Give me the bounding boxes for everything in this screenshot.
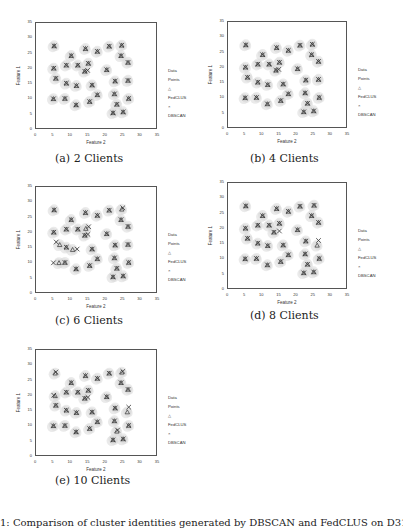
- x-tick-label: 0: [222, 292, 232, 297]
- x-tick-label: 0: [30, 459, 40, 464]
- legend-item-fedclus: △ FedCLUS: [168, 411, 186, 429]
- legend-item-dbscan: × DBSCAN: [168, 429, 186, 447]
- x-tick-label: 10: [256, 292, 266, 297]
- legend: Data Points△ FedCLUS× DBSCAN: [168, 230, 186, 284]
- plot-area: [227, 21, 347, 128]
- x-tick-label: 10: [65, 459, 75, 464]
- legend-item-dbscan: × DBSCAN: [168, 266, 186, 284]
- legend: Data Points△ FedCLUS× DBSCAN: [358, 226, 376, 280]
- x-tick-label: 30: [135, 459, 145, 464]
- x-tick-label: 5: [47, 296, 57, 301]
- scatter-points: [36, 187, 158, 294]
- y-axis-label: Feature 1: [208, 59, 213, 89]
- y-axis-label: Feature 1: [16, 387, 21, 417]
- y-tick-label: 10: [214, 94, 224, 99]
- x-tick-label: 10: [256, 131, 266, 136]
- y-tick-label: 10: [22, 422, 32, 427]
- y-tick-label: 35: [22, 183, 32, 188]
- x-tick-label: 10: [65, 132, 75, 137]
- y-tick-label: 0: [22, 453, 32, 458]
- figure-caption: 1: Comparison of cluster identities gene…: [0, 517, 403, 528]
- x-tick-label: 15: [82, 459, 92, 464]
- y-axis-label: Feature 1: [16, 224, 21, 254]
- y-tick-label: 25: [22, 377, 32, 382]
- y-tick-label: 15: [22, 80, 32, 85]
- x-tick-label: 15: [82, 296, 92, 301]
- legend-item-data-points: Data Points: [358, 226, 376, 244]
- y-tick-label: 25: [22, 214, 32, 219]
- y-tick-label: 0: [214, 125, 224, 130]
- x-tick-label: 15: [82, 132, 92, 137]
- x-tick-label: 15: [273, 131, 283, 136]
- y-axis-label: Feature 1: [16, 60, 21, 90]
- legend: Data Points△ FedCLUS× DBSCAN: [168, 393, 186, 447]
- y-tick-label: 20: [22, 392, 32, 397]
- x-tick-label: 5: [47, 459, 57, 464]
- x-tick-label: 20: [291, 292, 301, 297]
- legend-item-data-points: Data Points: [358, 65, 376, 83]
- y-tick-label: 30: [214, 33, 224, 38]
- y-tick-label: 15: [22, 407, 32, 412]
- y-tick-label: 35: [22, 19, 32, 24]
- subfigure-caption: (a) 2 Clients: [55, 152, 123, 165]
- legend-item-fedclus: △ FedCLUS: [358, 244, 376, 262]
- y-tick-label: 30: [22, 34, 32, 39]
- y-tick-label: 10: [22, 95, 32, 100]
- y-tick-label: 0: [22, 290, 32, 295]
- plot-area: [35, 349, 157, 456]
- x-tick-label: 0: [222, 131, 232, 136]
- subfigure-caption: (b) 4 Clients: [250, 152, 319, 165]
- legend: Data Points△ FedCLUS× DBSCAN: [168, 66, 186, 120]
- x-tick-label: 20: [291, 131, 301, 136]
- legend-item-data-points: Data Points: [168, 393, 186, 411]
- legend-item-dbscan: × DBSCAN: [358, 101, 376, 119]
- x-tick-label: 35: [152, 459, 162, 464]
- x-tick-label: 20: [100, 132, 110, 137]
- x-axis-label: Feature 2: [227, 300, 347, 305]
- plot-area: [35, 186, 157, 293]
- legend-item-data-points: Data Points: [168, 66, 186, 84]
- x-tick-label: 25: [117, 459, 127, 464]
- subfigure-caption: (d) 8 Clients: [250, 309, 319, 322]
- y-tick-label: 35: [22, 346, 32, 351]
- scatter-points: [228, 22, 348, 129]
- y-tick-label: 10: [22, 259, 32, 264]
- y-tick-label: 35: [214, 179, 224, 184]
- y-tick-label: 10: [214, 255, 224, 260]
- y-tick-label: 30: [22, 198, 32, 203]
- x-tick-label: 10: [65, 296, 75, 301]
- x-tick-label: 20: [100, 296, 110, 301]
- subfigure-caption: (c) 6 Clients: [55, 314, 123, 327]
- scatter-points: [228, 183, 348, 290]
- x-axis-label: Feature 2: [35, 140, 157, 145]
- y-tick-label: 20: [214, 225, 224, 230]
- x-tick-label: 0: [30, 132, 40, 137]
- x-axis-label: Feature 2: [227, 139, 347, 144]
- x-tick-label: 30: [135, 296, 145, 301]
- x-axis-label: Feature 2: [35, 467, 157, 472]
- y-tick-label: 30: [22, 361, 32, 366]
- x-tick-label: 25: [117, 132, 127, 137]
- legend-item-dbscan: × DBSCAN: [358, 262, 376, 280]
- x-tick-label: 30: [325, 131, 335, 136]
- plot-area: [227, 182, 347, 289]
- y-tick-label: 25: [214, 49, 224, 54]
- y-tick-label: 0: [22, 126, 32, 131]
- y-tick-label: 35: [214, 18, 224, 23]
- legend-item-fedclus: △ FedCLUS: [168, 84, 186, 102]
- x-tick-label: 20: [100, 459, 110, 464]
- x-tick-label: 25: [117, 296, 127, 301]
- y-tick-label: 30: [214, 194, 224, 199]
- plot-area: [35, 22, 157, 129]
- x-tick-label: 25: [308, 292, 318, 297]
- y-tick-label: 0: [214, 286, 224, 291]
- x-tick-label: 5: [47, 132, 57, 137]
- x-tick-label: 5: [239, 131, 249, 136]
- legend-item-data-points: Data Points: [168, 230, 186, 248]
- y-tick-label: 5: [22, 111, 32, 116]
- y-tick-label: 5: [22, 438, 32, 443]
- x-tick-label: 25: [308, 131, 318, 136]
- x-tick-label: 30: [135, 132, 145, 137]
- x-tick-label: 35: [342, 292, 352, 297]
- x-tick-label: 5: [239, 292, 249, 297]
